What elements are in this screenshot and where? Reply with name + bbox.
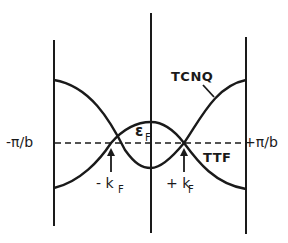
tcnq-band-label: TCNQ: [171, 69, 213, 84]
fermi-energy-subscript: F: [145, 132, 151, 143]
tcnq-pointer-line: [203, 85, 214, 97]
right-boundary-label: +π/b: [244, 134, 278, 150]
diagram-canvas: -π/b +π/b ε F - k F + k F TCNQ TTF: [0, 0, 288, 243]
ttf-band-label: TTF: [203, 150, 231, 165]
plus-kf-subscript: F: [188, 184, 194, 195]
left-boundary-label: -π/b: [6, 134, 33, 150]
minus-kf-label: - k: [96, 175, 115, 191]
fermi-energy-label: ε: [135, 122, 143, 140]
band-structure-diagram: -π/b +π/b ε F - k F + k F TCNQ TTF: [0, 0, 288, 243]
plus-kf-arrowhead-icon: [180, 148, 188, 156]
minus-kf-subscript: F: [118, 184, 124, 195]
